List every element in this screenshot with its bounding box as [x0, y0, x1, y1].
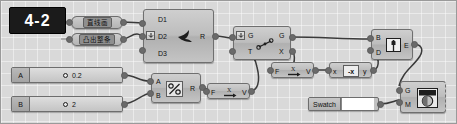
negate-x-icon: -x — [343, 65, 359, 77]
extrude-param-out-nub[interactable] — [120, 36, 127, 43]
slider-a-value: 0.2 — [72, 72, 82, 79]
slider-b-track[interactable]: 2 — [30, 97, 122, 111]
shatter-g-in-nub[interactable] — [229, 34, 236, 41]
render-m-nub[interactable] — [396, 99, 403, 106]
divide-input-d3[interactable]: D3 — [158, 50, 167, 57]
curve-param-out-nub[interactable] — [120, 19, 127, 26]
arrow-vector-icon: X — [285, 65, 302, 77]
slider-b-value: 2 — [72, 101, 76, 108]
swatch-component[interactable]: Swatch — [308, 97, 379, 111]
shatter-output-g[interactable]: G — [279, 32, 284, 39]
shatter-x-out-nub[interactable] — [289, 48, 296, 55]
curve-param-label: 直线画 — [83, 17, 112, 28]
arrow-vector-icon: X — [221, 86, 238, 98]
book-icon — [385, 37, 401, 53]
vector-upper-f-nub[interactable] — [267, 67, 274, 74]
slider-a-out-nub[interactable] — [121, 72, 128, 79]
slider-a-knob[interactable] — [63, 73, 68, 78]
render-g-nub[interactable] — [396, 87, 403, 94]
slider-a[interactable]: A 0.2 — [11, 67, 123, 83]
division-input-a[interactable]: A — [156, 78, 161, 85]
shatter-input-t[interactable]: T — [248, 48, 252, 55]
slider-b-out-nub[interactable] — [121, 101, 128, 108]
slider-b-label: B — [12, 97, 30, 111]
vector-lower-output-v[interactable]: V — [242, 89, 247, 96]
curve-param[interactable]: 直线画 — [71, 16, 123, 29]
extrude-d-nub[interactable] — [367, 47, 374, 54]
extrude-e-nub[interactable] — [411, 41, 418, 48]
shatter-node[interactable]: G T G X — [233, 26, 291, 60]
negate-x-nub[interactable] — [325, 67, 332, 74]
shaded-sphere-icon — [416, 87, 438, 108]
extrude-param[interactable]: 凸出整条 — [71, 33, 123, 46]
vector-upper-input-f[interactable]: F — [275, 68, 279, 75]
shatter-g-out-nub[interactable] — [289, 34, 296, 41]
chevron-down-icon — [148, 33, 154, 39]
divide-input-d2[interactable]: D2 — [158, 33, 167, 40]
division-node[interactable]: A B R — [151, 73, 201, 103]
division-a-nub[interactable] — [147, 78, 154, 85]
divide-d2-nub[interactable] — [139, 33, 146, 40]
vector-lower-f-nub[interactable] — [203, 88, 210, 95]
grasshopper-canvas[interactable]: 4-2 直线画 凸出整条 D1 D2 D3 R — [0, 0, 457, 124]
negate-input-x[interactable]: x — [333, 68, 337, 75]
divide-d1-nub[interactable] — [139, 20, 146, 27]
negate-y-nub[interactable] — [370, 67, 377, 74]
negate-x-icon-label: -x — [348, 68, 354, 75]
swatch-out-nub[interactable] — [377, 101, 384, 108]
divide-d3-nub[interactable] — [139, 47, 146, 54]
vector-lower-node[interactable]: F X V — [207, 83, 250, 99]
shatter-t-in-nub[interactable] — [229, 48, 236, 55]
divide-input-d1[interactable]: D1 — [158, 16, 167, 23]
vector-lower-v-nub[interactable] — [248, 88, 255, 95]
svg-text:X: X — [291, 66, 296, 72]
wire-g-to-b — [291, 37, 370, 39]
percent-divide-icon — [166, 81, 183, 97]
svg-text:X: X — [227, 87, 232, 93]
section-badge: 4-2 — [9, 7, 66, 34]
vector-lower-input-f[interactable]: F — [211, 89, 215, 96]
extrude-input-b[interactable]: B — [376, 34, 381, 41]
division-b-nub[interactable] — [147, 90, 154, 97]
vector-upper-node[interactable]: F X V — [271, 62, 314, 78]
render-input-m[interactable]: M — [405, 101, 411, 108]
extrude-node[interactable]: B D E — [371, 29, 413, 60]
divide-toggle[interactable] — [146, 31, 155, 40]
swatch-label: Swatch — [309, 98, 341, 110]
chevron-down-icon — [238, 33, 244, 39]
divide-output-r[interactable]: R — [200, 33, 205, 40]
slider-b-knob[interactable] — [63, 102, 68, 107]
slider-a-label: A — [12, 68, 30, 82]
extrude-param-label: 凸出整条 — [79, 34, 115, 45]
slider-a-track[interactable]: 0.2 — [30, 68, 122, 82]
extrude-input-d[interactable]: D — [376, 49, 381, 56]
bird-icon — [176, 28, 194, 44]
curve-param-in-nub[interactable] — [66, 19, 73, 26]
swatch-color-field[interactable] — [341, 98, 374, 110]
render-input-g[interactable]: G — [405, 87, 410, 94]
extrude-output-e[interactable]: E — [404, 42, 409, 49]
shatter-output-x[interactable]: X — [279, 48, 284, 55]
negate-node[interactable]: x -x y — [329, 62, 372, 78]
extrude-param-in-nub[interactable] — [66, 36, 73, 43]
divide-r-nub[interactable] — [212, 33, 219, 40]
segment-icon — [256, 37, 274, 50]
division-output-r[interactable]: R — [190, 85, 195, 92]
shatter-toggle[interactable] — [236, 31, 245, 40]
negate-output-y[interactable]: y — [363, 68, 367, 75]
division-input-b[interactable]: B — [156, 92, 161, 99]
vector-upper-output-v[interactable]: V — [306, 68, 311, 75]
vector-upper-v-nub[interactable] — [312, 67, 319, 74]
divide-curve-node[interactable]: D1 D2 D3 R — [143, 9, 214, 63]
shatter-input-g[interactable]: G — [248, 32, 253, 39]
slider-b[interactable]: B 2 — [11, 96, 123, 112]
render-node[interactable]: G M — [400, 81, 446, 113]
extrude-b-nub[interactable] — [367, 35, 374, 42]
